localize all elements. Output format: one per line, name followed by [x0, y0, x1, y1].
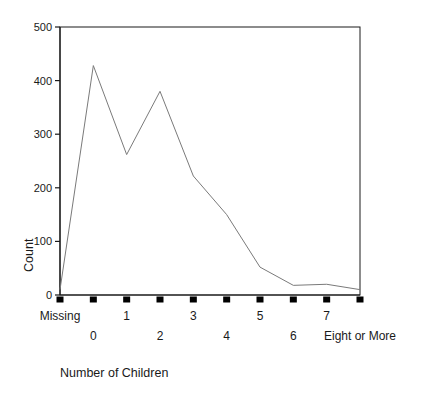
x-tick-marker: [323, 297, 330, 303]
y-tick-label-300: 300: [34, 128, 52, 140]
x-tick-label: 3: [190, 309, 197, 323]
x-tick-label: 4: [223, 329, 230, 343]
line-chart: 0100200300400500 Missing01234567Eight or…: [0, 0, 433, 406]
x-tick-label: 1: [123, 309, 130, 323]
x-tick-label: Eight or More: [324, 329, 396, 343]
x-tick-marker: [57, 297, 64, 303]
y-tick-label-400: 400: [34, 75, 52, 87]
x-tick-marker: [190, 297, 197, 303]
x-tick-label: 6: [290, 329, 297, 343]
x-tick-label: Missing: [40, 309, 81, 323]
x-tick-label: 0: [90, 329, 97, 343]
x-tick-marker: [357, 297, 364, 303]
x-tick-label: 2: [157, 329, 164, 343]
y-tick-label-200: 200: [34, 182, 52, 194]
x-tick-label: 7: [323, 309, 330, 323]
x-tick-marker: [123, 297, 130, 303]
x-tick-marker: [257, 297, 264, 303]
y-axis-title: Count: [22, 238, 36, 272]
x-axis-title: Number of Children: [60, 366, 168, 380]
x-tick-marker: [223, 297, 230, 303]
y-tick-label-500: 500: [34, 21, 52, 33]
y-tick-label-100: 100: [34, 235, 52, 247]
x-tick-marker: [157, 297, 164, 303]
x-tick-marker: [90, 297, 97, 303]
x-tick-marker: [290, 297, 297, 303]
x-tick-label: 5: [257, 309, 264, 323]
chart-container: 0100200300400500 Missing01234567Eight or…: [0, 0, 433, 406]
y-tick-label-0: 0: [46, 289, 52, 301]
